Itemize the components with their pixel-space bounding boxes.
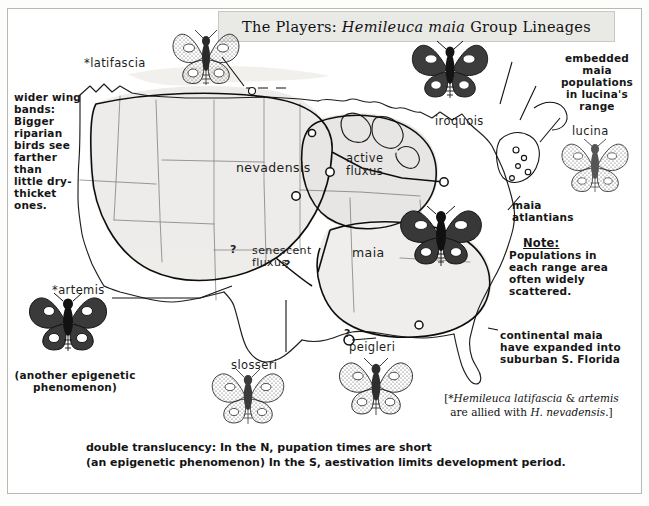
annotation-another-epigenetic: (another epigenetic phenomenon) [8, 370, 142, 394]
query-mark-south: ? [344, 327, 351, 340]
annotation-continental-maia: continental maia have expanded into subu… [500, 330, 646, 366]
map-label-slosseri: slosseri [231, 358, 277, 372]
artemis-moth [22, 290, 114, 354]
map-label-senescent-fluxus: senescent fluxus [252, 245, 312, 270]
annotation-note-body: Populations in each range area often wid… [509, 250, 641, 298]
peigleri-moth [330, 355, 422, 419]
map-label-active-fluxus: active fluxus [346, 152, 383, 177]
map-label-lucina: lucina [572, 124, 609, 138]
slosseri-moth [203, 366, 293, 428]
lucina-moth [552, 136, 638, 196]
iroquois-moth [404, 38, 496, 102]
artemis-leader [112, 286, 232, 298]
annotation-embedded-maia: embedded maia populations in lucina's ra… [551, 53, 643, 113]
diagram-page: The Players: Hemileuca maia Group Lineag… [0, 0, 649, 506]
page-title: The Players: Hemileuca maia Group Lineag… [242, 19, 591, 35]
bracket-note: [*Hemileuca latifascia & artemis are all… [424, 392, 639, 419]
map-label-artemis: *artemis [52, 283, 105, 297]
annotation-wider-wing-bands: wider wing bands: Bigger riparian birds … [14, 92, 106, 212]
maia-moth [393, 203, 489, 269]
caption-line-1: double translucency: In the N, pupation … [86, 441, 432, 454]
caption-line-2: (an epigenetic phenomenon) In the S, aes… [86, 456, 606, 471]
latifascia-moth [163, 27, 249, 89]
query-mark-central: ? [284, 258, 291, 271]
map-label-peigleri: peigleri [349, 340, 395, 354]
bottom-caption: double translucency: In the N, pupation … [86, 441, 606, 471]
annotation-maia-atlantians: maia atlantians [512, 200, 612, 224]
query-mark-west: ? [230, 243, 237, 256]
map-label-nevadensis: nevadensis [236, 160, 311, 175]
map-label-iroquois: iroquois [435, 114, 484, 128]
map-label-latifascia: *latifascia [84, 56, 146, 70]
map-label-maia: maia [352, 245, 385, 260]
